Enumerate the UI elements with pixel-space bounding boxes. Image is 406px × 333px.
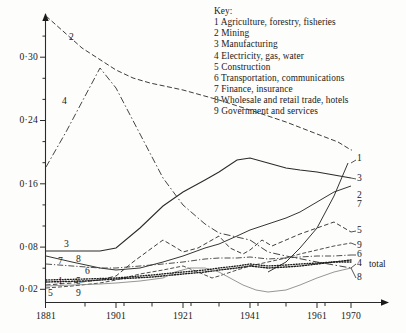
- x-tick-label-1901: 1901: [94, 310, 138, 321]
- series-label-9-left: 9: [76, 287, 81, 298]
- y-tick-label-008: 0·08: [0, 241, 38, 252]
- series-label-3-right: 3: [357, 172, 362, 183]
- y-tick-label-024: 0·24: [0, 114, 38, 125]
- series-line-7: [46, 186, 351, 270]
- x-tick-marks: [46, 303, 352, 309]
- series-label-3-left: 3: [64, 238, 69, 249]
- series-label-6-left: 6: [85, 265, 90, 276]
- series-label-4-right: 4: [357, 257, 362, 268]
- series-label-7-right: 7: [357, 198, 362, 209]
- series-label-1-left: 1: [58, 275, 63, 286]
- right-label-leaders: [351, 150, 356, 278]
- series-label-8-left: 8: [76, 253, 81, 264]
- series-label-7-left: 7: [58, 255, 63, 266]
- series-label-8-right: 8: [357, 271, 362, 282]
- x-tick-label-1921: 1921: [161, 310, 205, 321]
- x-tick-label-1970: 1970: [329, 310, 373, 321]
- axis-lines: [46, 14, 389, 303]
- series-line-1-right: [268, 163, 348, 272]
- chart-figure: Key: 1 Agriculture, forestry, fisheries …: [0, 0, 406, 333]
- y-tick-label-002: 0·02: [0, 283, 38, 294]
- series-label-total-right: total: [369, 259, 386, 269]
- x-tick-label-1941: 1941: [228, 310, 272, 321]
- y-tick-marks: [40, 36, 46, 289]
- series-line-3: [46, 158, 351, 251]
- series-line-4: [46, 68, 351, 268]
- series-label-5-right: 5: [357, 224, 362, 235]
- x-tick-label-1881: 1881: [24, 310, 68, 321]
- series-label-5-left: 5: [76, 275, 81, 286]
- y-tick-label-030: 0·30: [0, 51, 38, 62]
- series-line-5: [46, 222, 351, 285]
- series-label-1-right: 1: [357, 152, 362, 163]
- series-label-4-left: 4: [62, 95, 67, 106]
- series-label-2-top: 2: [69, 31, 74, 42]
- y-tick-label-016: 0·16: [0, 178, 38, 189]
- series-label-5-low: 5: [48, 287, 53, 298]
